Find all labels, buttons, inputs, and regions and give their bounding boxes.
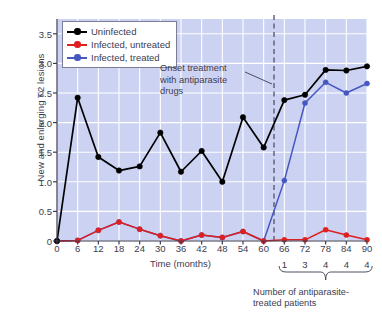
legend-item-infected-treated: Infected, treated	[67, 51, 170, 64]
onset-treatment-annotation: Onset treatmentwith antiparasitedrugs	[160, 63, 227, 98]
legend-marker-icon	[67, 39, 87, 50]
patient-count-caption-line: treated patients	[253, 298, 381, 309]
patient-count-caption-line: Number of antiparasite-	[253, 287, 381, 298]
patient-count-value: 4	[335, 259, 357, 270]
patient-count-value: 4	[315, 259, 337, 270]
legend-label: Infected, treated	[91, 52, 160, 63]
x-axis-tick-labels: 061218243036424854606672788490	[57, 243, 367, 259]
x-tick-label: 90	[354, 243, 380, 254]
patient-count-value: 3	[294, 259, 316, 270]
annotation-line: drugs	[160, 86, 227, 98]
patient-count-value: 4	[356, 259, 378, 270]
patient-count-value: 1	[273, 259, 295, 270]
patient-count-caption: Number of antiparasite-treated patients	[253, 287, 381, 309]
legend-marker-icon	[67, 26, 87, 37]
patient-count-row: 13444	[57, 259, 367, 273]
legend-marker-icon	[67, 52, 87, 63]
legend-label: Uninfected	[91, 26, 136, 37]
legend-item-uninfected: Uninfected	[67, 25, 170, 38]
chart-legend: UninfectedInfected, untreatedInfected, t…	[62, 21, 177, 68]
legend-item-infected-untreated: Infected, untreated	[67, 38, 170, 51]
annotation-line: Onset treatment	[160, 63, 227, 75]
chart-figure: New and enlarging T2 lesions 00.51.01.52…	[0, 0, 382, 315]
annotation-line: with antiparasite	[160, 75, 227, 87]
legend-label: Infected, untreated	[91, 39, 170, 50]
